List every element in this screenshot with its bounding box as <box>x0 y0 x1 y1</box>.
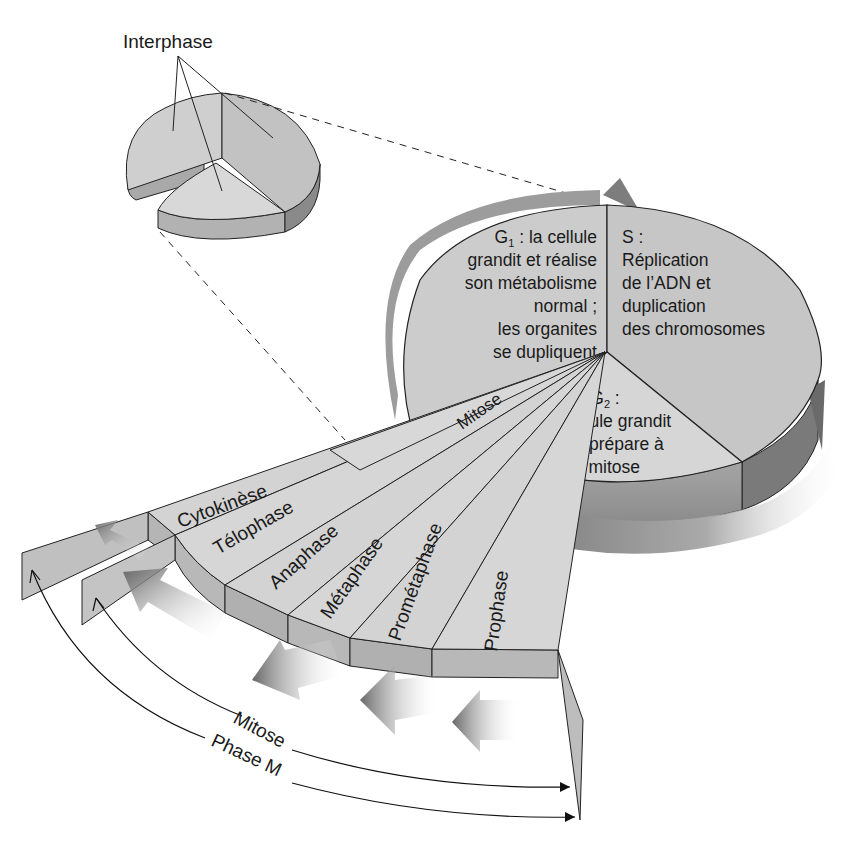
svg-text:se dupliquent: se dupliquent <box>493 342 597 362</box>
svg-text:grandit et réalise: grandit et réalise <box>468 250 597 270</box>
arrow-icon <box>452 690 520 752</box>
svg-text:son métabolisme: son métabolisme <box>465 273 597 293</box>
svg-text:de l’ADN et: de l’ADN et <box>622 273 711 293</box>
projection-line-bottom <box>160 232 345 440</box>
svg-text:normal ;: normal ; <box>534 296 597 316</box>
svg-text:Réplication: Réplication <box>622 250 709 270</box>
small-interphase-pie: Interphase <box>123 31 320 239</box>
svg-text:les organites: les organites <box>498 319 597 339</box>
arrow-icon <box>252 640 345 700</box>
cell-cycle-diagram: Interphase G1 : la cellule grandit et ré… <box>0 0 849 858</box>
svg-text:des chromosomes: des chromosomes <box>622 319 765 339</box>
svg-text:duplication: duplication <box>622 296 706 316</box>
g1-heading: G <box>495 227 509 247</box>
interphase-label: Interphase <box>123 31 213 52</box>
s-heading: S : <box>622 227 643 247</box>
